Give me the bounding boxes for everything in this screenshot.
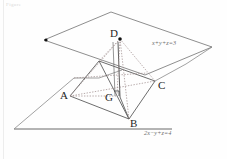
upper-plane-outline [44,12,212,75]
edge-A-B [70,96,129,119]
vertex-label-D: D [110,28,118,39]
plane-equation-lower: 2x−y+z=4 [144,130,171,136]
lower-plane-top-notch [74,70,122,78]
point-marker-plane-left [44,38,47,41]
point-marker-D [118,37,122,41]
vertex-label-B: B [130,118,137,129]
hidden-edges [70,39,155,119]
edge-A-apexleft [70,61,99,96]
artifact-text: Figure [6,2,21,7]
upper-plane-polygon [44,12,212,75]
vertex-label-C: C [158,80,165,91]
hidden-edge-D-apexleft [99,39,120,61]
vertex-label-A: A [60,90,68,101]
edge-B-C [129,81,155,119]
vertex-label-G: G [105,92,113,103]
lower-plane-left-edges [14,78,172,129]
plane-equation-upper: x+y+z=3 [152,40,176,46]
geometry-figure: Figure D A B C G x+y+z=3 2x−y+z=4 [0,0,227,159]
lower-plane-right-edge [155,47,212,81]
figure-canvas [0,0,227,159]
